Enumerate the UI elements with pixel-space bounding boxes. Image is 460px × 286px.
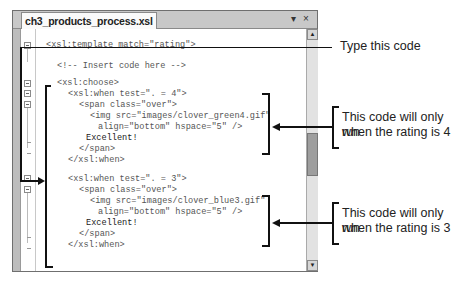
collapse-icon[interactable] xyxy=(24,80,31,87)
code-line: <xsl:when test=". = 3"> xyxy=(68,174,187,185)
scroll-down-icon[interactable]: ▼ xyxy=(307,260,318,271)
vertical-scrollbar[interactable]: ▲ ▼ xyxy=(306,29,318,271)
type-this-code-vertical xyxy=(20,47,22,181)
fold-line xyxy=(27,49,28,62)
rating4-callout-bracket xyxy=(332,106,334,149)
dropdown-icon[interactable]: ▾ xyxy=(291,13,296,25)
code-line: </xsl:when> xyxy=(68,155,125,166)
rating3-callout-bracket-top xyxy=(332,202,339,204)
code-line: <xsl:when test=". = 4"> xyxy=(68,89,187,100)
code-line: <span class="over"> xyxy=(79,100,177,111)
rating4-bracket-top xyxy=(262,93,269,95)
rating3-callout-bracket xyxy=(332,202,334,245)
choose-bracket-top xyxy=(45,85,51,87)
rating3-bracket-bottom xyxy=(262,245,269,247)
code-line: <img src="images/clover_green4.gif" xyxy=(90,111,271,122)
editor-window: ch3_products_process.xsl ▾ × <xsl:templa… xyxy=(12,10,318,272)
choose-bracket-bottom xyxy=(45,266,53,268)
fold-end-tick xyxy=(27,142,31,143)
rating4-callout-bracket-top xyxy=(332,106,339,108)
fold-end-tick xyxy=(27,248,31,249)
close-icon[interactable]: × xyxy=(303,13,309,25)
rating3-leader xyxy=(279,222,334,224)
collapse-icon[interactable] xyxy=(24,186,31,193)
collapse-icon[interactable] xyxy=(24,90,31,97)
code-line: </span> xyxy=(79,144,115,155)
rating4-bracket-bottom xyxy=(262,153,269,155)
code-line: Excellent! xyxy=(86,133,138,144)
tab-bar: ch3_products_process.xsl ▾ × xyxy=(13,11,317,29)
code-line: </span> xyxy=(79,229,115,240)
code-line: <!-- Insert code here --> xyxy=(57,61,186,72)
scroll-up-icon[interactable]: ▲ xyxy=(307,29,318,40)
code-line: </xsl:when> xyxy=(68,240,125,251)
code-editor[interactable]: <xsl:template match="rating"> <!-- Inser… xyxy=(20,29,307,271)
scroll-thumb[interactable] xyxy=(307,133,318,176)
choose-bracket xyxy=(45,85,47,268)
callout-rating3-line2: when the rating is 3 xyxy=(342,221,450,236)
fold-line xyxy=(27,193,28,243)
collapse-icon[interactable] xyxy=(24,101,31,108)
type-this-code-leader xyxy=(20,47,332,48)
rating4-leader xyxy=(279,126,334,128)
callout-type-this-code: Type this code xyxy=(340,39,421,54)
fold-end-tick xyxy=(27,237,31,238)
arrow-right-icon xyxy=(38,177,45,185)
code-line: <xsl:template match="rating"> xyxy=(46,40,196,51)
code-line: align="bottom" hspace="5" /> xyxy=(98,122,242,133)
callout-rating4-line2: when the rating is 4 xyxy=(342,125,450,140)
code-line: <img src="images/clover_blue3.gif" xyxy=(90,196,265,207)
rating3-bracket xyxy=(268,195,270,247)
code-line: <span class="over"> xyxy=(79,185,177,196)
fold-end-tick xyxy=(27,153,31,154)
code-line: <xsl:choose> xyxy=(57,78,119,89)
rating3-callout-bracket-bottom xyxy=(332,243,339,245)
rating4-callout-bracket-bottom xyxy=(332,147,339,149)
type-this-code-arrow-line xyxy=(20,180,38,182)
gutter xyxy=(21,29,36,271)
tab-ch3-products-process[interactable]: ch3_products_process.xsl xyxy=(21,12,157,29)
rating3-bracket-top xyxy=(262,195,269,197)
code-line: align="bottom" hspace="5" /> xyxy=(98,207,242,218)
code-line: Excellent! xyxy=(86,218,138,229)
rating4-bracket xyxy=(268,93,270,155)
